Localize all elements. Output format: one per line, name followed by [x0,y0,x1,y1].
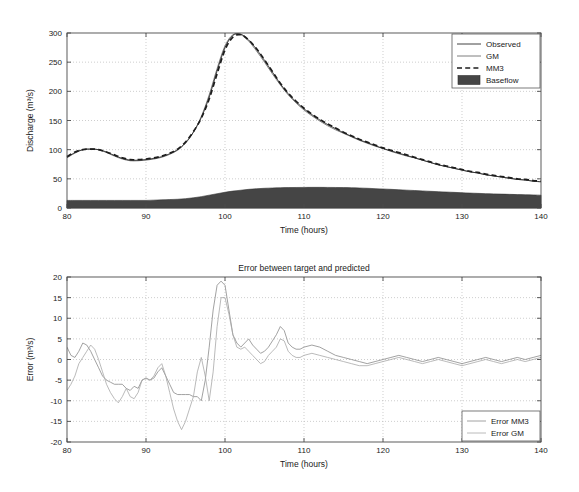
legend-label-baseflow: Baseflow [486,76,519,85]
x-tick-label: 110 [298,446,311,455]
y-tick-label: 300 [49,29,63,38]
y-tick-label: 5 [58,335,63,344]
y-tick-label: 150 [49,117,63,126]
hydrograph-yaxis-label: Discharge (m³/s) [25,89,35,152]
legend-label-mm3: MM3 [486,64,504,73]
figure-container: 8090100110120130140050100150200250300 Ti… [0,0,579,492]
y-tick-label: -15 [50,417,62,426]
y-tick-label: -10 [50,397,62,406]
error-chart-title: Error between target and predicted [238,263,370,273]
y-tick-label: 250 [49,58,63,67]
x-tick-label: 140 [534,446,548,455]
legend-label-error-mm3: Error MM3 [491,417,529,426]
error-legend[interactable]: Error MM3Error GM [462,411,540,441]
hydrograph-xaxis-label: Time (hours) [280,225,328,235]
x-tick-label: 130 [455,212,469,221]
x-tick-label: 110 [298,212,311,221]
legend-swatch-baseflow [458,76,480,85]
legend-label-gm: GM [486,52,499,61]
x-tick-label: 90 [142,446,151,455]
hydrograph-legend[interactable]: ObservedGMMM3Baseflow [452,34,540,88]
y-tick-label: -20 [50,438,62,447]
x-tick-label: 130 [455,446,469,455]
y-tick-label: -5 [55,376,63,385]
x-tick-label: 120 [376,212,390,221]
error-xaxis-label: Time (hours) [280,459,328,469]
figure-svg: 8090100110120130140050100150200250300 Ti… [0,0,579,492]
x-tick-label: 100 [218,446,232,455]
x-tick-label: 120 [376,446,390,455]
y-tick-label: 0 [58,356,63,365]
y-tick-label: 10 [53,314,62,323]
y-tick-label: 15 [53,294,62,303]
legend-label-error-gm: Error GM [491,429,524,438]
x-tick-label: 90 [142,212,151,221]
y-tick-label: 200 [49,87,63,96]
y-tick-label: 20 [53,273,62,282]
y-tick-label: 50 [53,175,62,184]
y-tick-label: 100 [49,146,63,155]
x-tick-label: 80 [63,212,72,221]
y-tick-label: 0 [58,204,63,213]
x-tick-label: 80 [63,446,72,455]
x-tick-label: 100 [218,212,232,221]
error-yaxis-label: Error (m³/s) [25,338,35,382]
x-tick-label: 140 [534,212,548,221]
legend-label-observed: Observed [486,40,521,49]
